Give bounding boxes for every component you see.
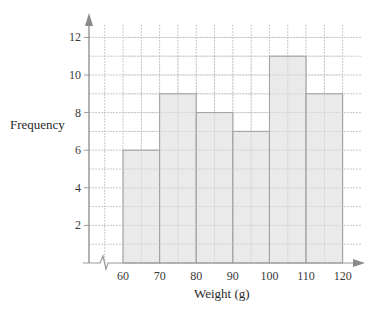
x-tick-label: 60 bbox=[117, 269, 129, 283]
y-tick-label: 4 bbox=[75, 181, 81, 195]
x-tick-label: 120 bbox=[334, 269, 352, 283]
x-axis-label: Weight (g) bbox=[194, 286, 250, 301]
y-tick-label: 12 bbox=[69, 30, 81, 44]
x-tick-label: 80 bbox=[190, 269, 202, 283]
x-tick-label: 70 bbox=[154, 269, 166, 283]
x-axis-ticks: 60708090100110120 bbox=[117, 269, 352, 283]
histogram-chart: 24681012 60708090100110120 Frequency Wei… bbox=[0, 0, 371, 312]
y-axis-ticks: 24681012 bbox=[69, 30, 89, 232]
x-tick-label: 90 bbox=[227, 269, 239, 283]
x-tick-label: 100 bbox=[260, 269, 278, 283]
y-axis-arrow-icon bbox=[85, 13, 93, 26]
x-axis-arrow-icon bbox=[353, 259, 365, 267]
y-tick-label: 8 bbox=[75, 106, 81, 120]
histogram-bars bbox=[123, 37, 343, 263]
y-tick-label: 10 bbox=[69, 68, 81, 82]
y-tick-label: 6 bbox=[75, 143, 81, 157]
y-tick-label: 2 bbox=[75, 218, 81, 232]
x-tick-label: 110 bbox=[297, 269, 315, 283]
y-axis-label: Frequency bbox=[10, 117, 65, 132]
